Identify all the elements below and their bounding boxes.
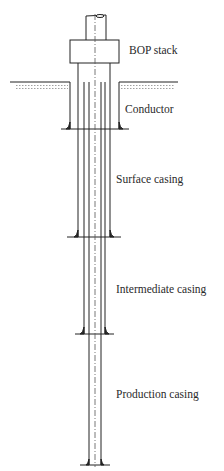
top-pipe	[86, 15, 106, 41]
well-schematic	[0, 0, 224, 471]
surface-casing	[67, 63, 121, 237]
bop-stack	[70, 40, 119, 63]
bop-stack-label: BOP stack	[129, 44, 177, 56]
conductor-label: Conductor	[125, 103, 174, 115]
production-casing-label: Production casing	[116, 388, 199, 400]
intermediate-casing-label: Intermediate casing	[116, 283, 206, 295]
surface-casing-label: Surface casing	[116, 173, 183, 185]
intermediate-casing	[75, 82, 114, 334]
